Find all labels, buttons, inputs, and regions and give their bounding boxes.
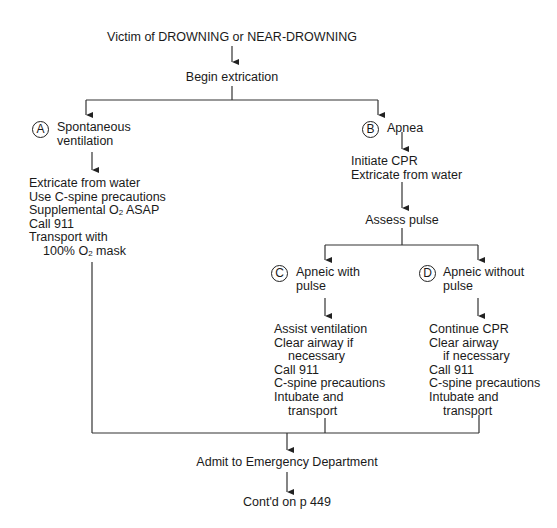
start-node-title: Victim of DROWNING or NEAR-DROWNING <box>107 31 357 45</box>
action-item: Extricate from water <box>351 169 462 183</box>
action-item: 100% O2 mask <box>29 245 166 259</box>
branch-b-label: Apnea <box>387 122 423 136</box>
action-item: Call 911 <box>429 364 540 378</box>
action-item: Call 911 <box>29 218 166 232</box>
action-item: if necessary <box>429 350 540 364</box>
marker-c-icon: C <box>271 265 288 282</box>
action-item: Initiate CPR <box>351 155 462 169</box>
action-item: Call 911 <box>274 364 385 378</box>
branch-d-label-line: Apneic without <box>443 266 524 280</box>
action-item: Extricate from water <box>29 177 166 191</box>
action-item: Clear airway if <box>274 337 385 351</box>
continuation-note: Cont'd on p 449 <box>243 496 331 510</box>
marker-a-icon: A <box>32 121 49 138</box>
action-item: C-spine precautions <box>274 377 385 391</box>
flowchart-connectors <box>0 0 557 528</box>
branch-a-label: Spontaneous ventilation <box>57 121 131 148</box>
action-item: transport <box>274 405 385 419</box>
branch-a-label-line: ventilation <box>57 135 131 149</box>
begin-extrication-node: Begin extrication <box>186 71 278 85</box>
branch-b-actions: Initiate CPR Extricate from water <box>351 155 462 182</box>
branch-c-actions: Assist ventilation Clear airway if neces… <box>274 323 385 418</box>
marker-d-icon: D <box>419 265 436 282</box>
branch-d-label-line: pulse <box>443 280 524 294</box>
branch-a-actions: Extricate from water Use C-spine precaut… <box>29 177 166 259</box>
marker-b-icon: B <box>362 121 379 138</box>
action-item: Assist ventilation <box>274 323 385 337</box>
action-item: Supplemental O2 ASAP <box>29 204 166 218</box>
action-item: Transport with <box>29 231 166 245</box>
action-item: C-spine precautions <box>429 377 540 391</box>
admit-ed-node: Admit to Emergency Department <box>196 456 377 470</box>
action-item: necessary <box>274 350 385 364</box>
action-item: Clear airway <box>429 337 540 351</box>
branch-a-label-line: Spontaneous <box>57 121 131 135</box>
action-item: transport <box>429 405 540 419</box>
branch-d-label: Apneic without pulse <box>443 266 524 293</box>
assess-pulse-node: Assess pulse <box>365 214 439 228</box>
branch-d-actions: Continue CPR Clear airway if necessary C… <box>429 323 540 418</box>
branch-c-label-line: pulse <box>296 280 360 294</box>
action-item: Intubate and <box>274 391 385 405</box>
branch-c-label-line: Apneic with <box>296 266 360 280</box>
action-item: Intubate and <box>429 391 540 405</box>
branch-c-label: Apneic with pulse <box>296 266 360 293</box>
action-item: Use C-spine precautions <box>29 191 166 205</box>
action-item: Continue CPR <box>429 323 540 337</box>
